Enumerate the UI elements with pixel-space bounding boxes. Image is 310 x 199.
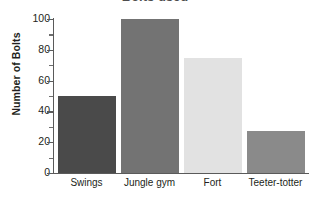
- bar[interactable]: [121, 19, 179, 173]
- bar[interactable]: [184, 58, 242, 174]
- x-tick-label: Fort: [181, 177, 244, 188]
- x-tick-label: Jungle gym: [118, 177, 181, 188]
- x-axis-category-labels: SwingsJungle gymFortTeeter-totter: [0, 177, 310, 197]
- bar[interactable]: [247, 131, 305, 173]
- x-tick-label: Teeter-totter: [244, 177, 307, 188]
- x-tick-label: Swings: [55, 177, 118, 188]
- bar[interactable]: [58, 96, 116, 173]
- bar-chart: Bolts used Number of Bolts 100806040200 …: [0, 0, 310, 199]
- bar-series: [0, 0, 310, 199]
